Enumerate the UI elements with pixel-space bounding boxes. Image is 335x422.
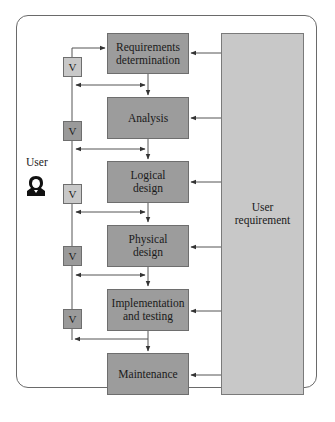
verification-box: V bbox=[63, 309, 82, 329]
phase-implementation-testing: Implementationand testing bbox=[107, 289, 189, 331]
phase-logical-design: Logicaldesign bbox=[107, 161, 189, 203]
phase-physical-design: Physicaldesign bbox=[107, 225, 189, 267]
phase-label-line1: Maintenance bbox=[118, 368, 177, 381]
phase-label-line1: Requirements bbox=[116, 41, 180, 54]
phase-label-line2: and testing bbox=[112, 310, 185, 323]
user-requirement-box: Userrequirement bbox=[221, 33, 304, 395]
phase-requirements-determination: Requirementsdetermination bbox=[107, 33, 189, 74]
phase-label-line2: design bbox=[129, 246, 168, 259]
phase-label-line2: design bbox=[130, 182, 165, 195]
phase-label-line1: Logical bbox=[130, 169, 165, 182]
phase-label-line1: Analysis bbox=[128, 112, 168, 125]
verification-box: V bbox=[63, 246, 82, 266]
verification-box: V bbox=[63, 184, 82, 204]
phase-analysis: Analysis bbox=[107, 97, 189, 139]
phase-label-line1: Implementation bbox=[112, 297, 185, 310]
user-label: User bbox=[26, 156, 48, 168]
user-person-icon bbox=[26, 175, 46, 197]
phase-maintenance: Maintenance bbox=[107, 353, 189, 395]
verification-box: V bbox=[63, 121, 82, 141]
verification-box: V bbox=[63, 57, 82, 77]
phase-label-line1: Physical bbox=[129, 233, 168, 246]
phase-label-line2: determination bbox=[116, 54, 180, 67]
user-requirement-label-line1: User bbox=[235, 201, 291, 214]
user-requirement-label-line2: requirement bbox=[235, 214, 291, 227]
